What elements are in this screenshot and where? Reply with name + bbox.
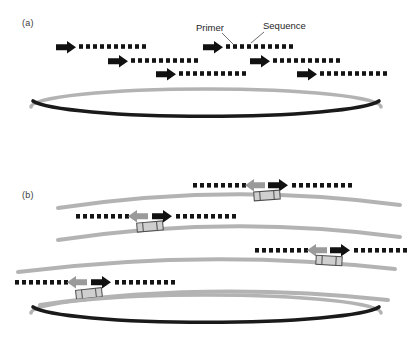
read-a-4 bbox=[203, 41, 293, 53]
primer-arrow-icon bbox=[203, 41, 223, 53]
unit-b-3 bbox=[255, 244, 407, 266]
primer-arrow-icon bbox=[108, 55, 128, 67]
sequence-dashes-left bbox=[15, 280, 68, 285]
sequence-dashes bbox=[320, 71, 387, 76]
sequence-dashes-left bbox=[76, 214, 129, 219]
reverse-primer-arrow-icon bbox=[67, 276, 87, 288]
primer-arrow-icon bbox=[250, 55, 270, 67]
template-arc-1 bbox=[58, 194, 400, 208]
sequence-dashes bbox=[179, 71, 246, 76]
template-bottom-arc bbox=[33, 307, 379, 322]
panel-b-label: (b) bbox=[22, 190, 34, 200]
forward-primer-arrow-icon bbox=[268, 179, 288, 191]
sequence-dashes bbox=[131, 58, 198, 63]
sequence-dashes-left bbox=[255, 248, 308, 253]
sequence-dashes-right bbox=[115, 280, 175, 285]
primer-arrow-icon bbox=[56, 41, 76, 53]
reverse-primer-arrow-icon bbox=[307, 244, 327, 256]
read-a-2 bbox=[108, 55, 198, 67]
template-bottom-arc bbox=[33, 101, 379, 116]
circular-template-a bbox=[31, 89, 381, 116]
read-a-5 bbox=[250, 55, 340, 67]
read-a-6 bbox=[297, 68, 387, 80]
primer-arrow-icon bbox=[297, 68, 317, 80]
sequence-leader-line bbox=[251, 32, 264, 43]
sequence-dashes-right bbox=[176, 214, 236, 219]
figure-container: (a) Primer Sequence bbox=[0, 0, 412, 345]
primer-arrow-icon bbox=[156, 68, 176, 80]
sequence-dashes bbox=[273, 58, 340, 63]
sequence-dashes bbox=[79, 44, 146, 49]
forward-primer-arrow-icon bbox=[91, 276, 111, 288]
panel-a-reads bbox=[56, 41, 387, 80]
read-a-1 bbox=[56, 41, 146, 53]
barcode-adapter-icon bbox=[137, 221, 164, 232]
read-a-3 bbox=[156, 68, 246, 80]
barcode-adapter-icon bbox=[316, 255, 342, 265]
template-arc-2 bbox=[58, 226, 400, 240]
figure-vector-layer bbox=[0, 0, 412, 345]
sequence-dashes-right bbox=[354, 248, 407, 253]
sequence-dashes bbox=[226, 44, 293, 49]
barcode-adapter-icon bbox=[254, 190, 281, 201]
unit-b-2 bbox=[76, 210, 236, 232]
sequence-dashes-left bbox=[193, 183, 246, 188]
reverse-primer-arrow-icon bbox=[245, 179, 265, 191]
primer-leader-line bbox=[222, 33, 233, 44]
circular-template-b bbox=[31, 295, 381, 322]
template-top-arc bbox=[31, 89, 381, 107]
sequence-dashes-right bbox=[292, 183, 352, 188]
reverse-primer-arrow-icon bbox=[128, 210, 148, 222]
forward-primer-arrow-icon bbox=[330, 244, 350, 256]
